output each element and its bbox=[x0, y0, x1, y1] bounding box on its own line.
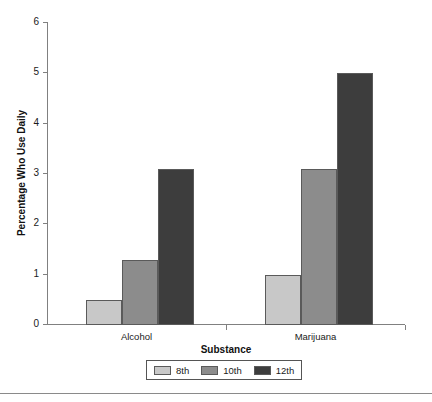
legend-label: 8th bbox=[176, 365, 189, 376]
bar-marijuana-8th bbox=[265, 275, 301, 325]
y-axis-tick-label: 6 bbox=[21, 15, 39, 28]
legend-swatch-icon bbox=[154, 366, 171, 375]
legend-label: 10th bbox=[223, 365, 242, 376]
chart-legend: 8th10th12th bbox=[146, 360, 302, 380]
bar-alcohol-12th bbox=[158, 169, 194, 325]
x-axis-tick-mark bbox=[405, 325, 406, 330]
bar-alcohol-8th bbox=[86, 300, 122, 325]
x-axis-tick-label: Marijuana bbox=[295, 331, 337, 342]
x-axis-tick-mark bbox=[226, 325, 227, 330]
x-axis-title: Substance bbox=[47, 344, 405, 355]
y-axis-tick-label: 0 bbox=[21, 317, 39, 330]
y-axis-tick-label: 2 bbox=[21, 216, 39, 229]
legend-label: 12th bbox=[276, 365, 295, 376]
bar-marijuana-10th bbox=[301, 169, 337, 325]
bar-marijuana-12th bbox=[337, 73, 373, 325]
legend-swatch-icon bbox=[254, 366, 271, 375]
y-axis-tick-label: 5 bbox=[21, 65, 39, 78]
bar-alcohol-10th bbox=[122, 260, 158, 325]
legend-item-10th[interactable]: 10th bbox=[201, 365, 242, 376]
bars-layer bbox=[47, 22, 405, 325]
bar-chart-figure: Percentage Who Use Daily 0123456 Alcohol… bbox=[0, 0, 432, 402]
footer-divider bbox=[0, 393, 432, 394]
legend-item-12th[interactable]: 12th bbox=[254, 365, 295, 376]
y-axis-tick-label: 3 bbox=[21, 166, 39, 179]
y-axis-tick-label: 1 bbox=[21, 267, 39, 280]
legend-swatch-icon bbox=[201, 366, 218, 375]
legend-item-8th[interactable]: 8th bbox=[154, 365, 189, 376]
y-axis-tick-label: 4 bbox=[21, 116, 39, 129]
x-axis-tick-label: Alcohol bbox=[121, 331, 152, 342]
